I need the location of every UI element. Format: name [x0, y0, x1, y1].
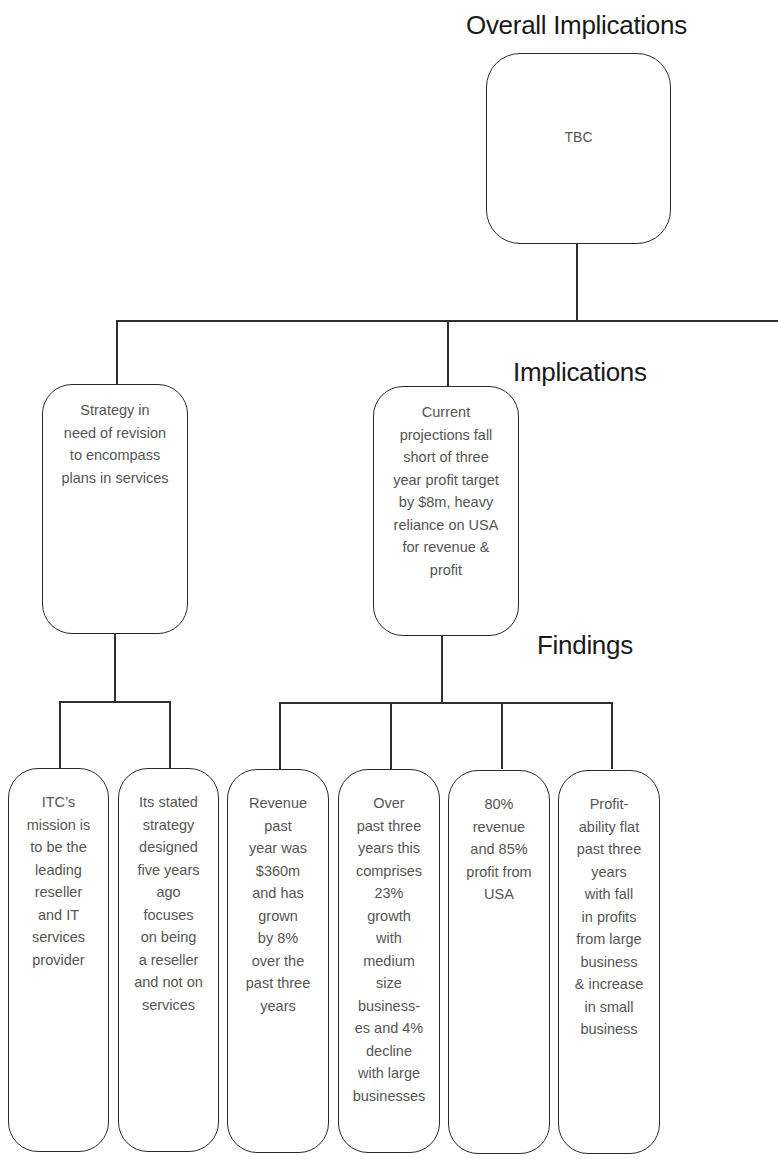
connector-find4-drop: [390, 702, 392, 769]
text-line: size: [353, 972, 426, 995]
text-line: mission is: [27, 814, 91, 837]
text-line: business: [575, 951, 644, 974]
text-line: years: [575, 861, 644, 884]
text-line: businesses: [353, 1085, 426, 1108]
text-line: and has: [246, 882, 311, 905]
text-line: medium: [353, 950, 426, 973]
text-line: and IT: [27, 904, 91, 927]
text-line: Current: [393, 401, 499, 424]
text-line: ago: [134, 881, 203, 904]
text-line: $360m: [246, 860, 311, 883]
text-line: reseller: [27, 881, 91, 904]
text-line: grown: [246, 905, 311, 928]
text-line: from large: [575, 928, 644, 951]
text-line: es and 4%: [353, 1017, 426, 1040]
finding-box-strategy: Its stated strategy designed five years …: [118, 768, 219, 1152]
overall-implication-box: TBC: [486, 53, 671, 244]
text-line: & increase: [575, 973, 644, 996]
text-line: designed: [134, 836, 203, 859]
text-line: Over: [353, 792, 426, 815]
connector-find2-drop: [169, 701, 171, 769]
text-line: Profit-: [575, 793, 644, 816]
text-line: Revenue: [246, 792, 311, 815]
text-line: year profit target: [393, 469, 499, 492]
connector-impl2-down: [441, 635, 443, 703]
connector-find3-drop: [279, 702, 281, 769]
text-line: past three: [353, 815, 426, 838]
text-line: USA: [466, 883, 531, 906]
text-line: business: [575, 1018, 644, 1041]
text-line: profit from: [466, 861, 531, 884]
finding-box-revenue: Revenue past year was $360m and has grow…: [227, 769, 329, 1153]
text-line: plans in services: [61, 467, 168, 490]
text-line: short of three: [393, 446, 499, 469]
text-line: with: [353, 927, 426, 950]
finding-text: ITC’s mission is to be the leading resel…: [27, 791, 91, 971]
text-line: by $8m, heavy: [393, 491, 499, 514]
text-line: reliance on USA: [393, 514, 499, 537]
text-line: need of revision: [61, 422, 168, 445]
text-line: to be the: [27, 836, 91, 859]
text-line: leading: [27, 859, 91, 882]
text-line: growth: [353, 905, 426, 928]
text-line: and not on: [134, 971, 203, 994]
text-line: business-: [353, 995, 426, 1018]
text-line: comprises: [353, 860, 426, 883]
text-line: a reseller: [134, 949, 203, 972]
text-line: year was: [246, 837, 311, 860]
connector-top-vertical: [576, 243, 578, 322]
text-line: strategy: [134, 814, 203, 837]
connector-find1-drop: [59, 701, 61, 769]
text-line: services: [134, 994, 203, 1017]
implication-box-projections: Current projections fall short of three …: [373, 386, 519, 636]
text-line: provider: [27, 949, 91, 972]
connector-impl1-drop: [116, 320, 118, 385]
text-line: in profits: [575, 906, 644, 929]
connector-find5-drop: [501, 702, 503, 769]
text-line: ability flat: [575, 816, 644, 839]
connector-findings-right-horizontal: [279, 702, 612, 704]
text-line: in small: [575, 996, 644, 1019]
text-line: on being: [134, 926, 203, 949]
connector-findings-left-horizontal: [59, 701, 170, 703]
heading-findings: Findings: [537, 630, 633, 661]
text-line: for revenue &: [393, 536, 499, 559]
text-line: services: [27, 926, 91, 949]
text-line: Its stated: [134, 791, 203, 814]
text-line: years: [246, 995, 311, 1018]
finding-text: 80% revenue and 85% profit from USA: [466, 793, 531, 906]
finding-box-mission: ITC’s mission is to be the leading resel…: [8, 768, 109, 1152]
text-line: projections fall: [393, 424, 499, 447]
implication-text: Strategy in need of revision to encompas…: [61, 399, 168, 489]
text-line: profit: [393, 559, 499, 582]
text-line: focuses: [134, 904, 203, 927]
text-line: decline: [353, 1040, 426, 1063]
connector-impl2-drop: [447, 320, 449, 387]
heading-implications: Implications: [513, 357, 647, 388]
text-line: over the: [246, 950, 311, 973]
text-line: and 85%: [466, 838, 531, 861]
text-line: past three: [246, 972, 311, 995]
implication-text: Current projections fall short of three …: [393, 401, 499, 581]
overall-implication-text: TBC: [565, 129, 593, 145]
finding-text: Over past three years this comprises 23%…: [353, 792, 426, 1107]
text-line: with large: [353, 1062, 426, 1085]
text-line: to encompass: [61, 444, 168, 467]
finding-text: Revenue past year was $360m and has grow…: [246, 792, 311, 1017]
text-line: by 8%: [246, 927, 311, 950]
finding-text: Its stated strategy designed five years …: [134, 791, 203, 1016]
text-line: 80%: [466, 793, 531, 816]
text-line: with fall: [575, 883, 644, 906]
text-line: ITC’s: [27, 791, 91, 814]
text-line: revenue: [466, 816, 531, 839]
finding-box-usa-share: 80% revenue and 85% profit from USA: [448, 770, 550, 1154]
implication-box-strategy: Strategy in need of revision to encompas…: [42, 384, 188, 634]
finding-box-growth: Over past three years this comprises 23%…: [338, 769, 440, 1153]
text-line: past: [246, 815, 311, 838]
finding-box-profitability: Profit- ability flat past three years wi…: [558, 770, 660, 1154]
connector-impl1-down: [114, 633, 116, 702]
connector-find6-drop: [611, 702, 613, 769]
finding-text: Profit- ability flat past three years wi…: [575, 793, 644, 1041]
text-line: years this: [353, 837, 426, 860]
text-line: five years: [134, 859, 203, 882]
